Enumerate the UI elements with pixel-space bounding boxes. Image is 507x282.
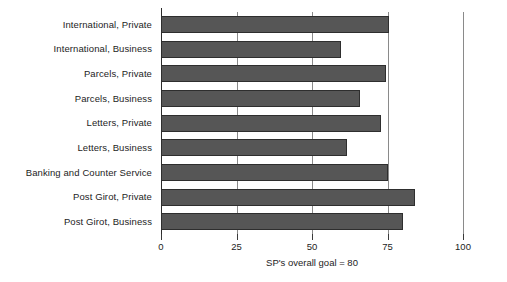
bar-row: [161, 86, 463, 111]
bar-row: [161, 12, 463, 37]
x-tick: [463, 234, 464, 240]
bar: [161, 115, 381, 132]
bar-row: [161, 111, 463, 136]
category-label: Post Girot, Private: [0, 185, 158, 210]
x-tick-label: 0: [158, 242, 163, 252]
axis-caption: SP's overall goal = 80: [161, 258, 463, 268]
category-label: Parcels, Private: [0, 61, 158, 86]
bar-chart: International, Private International, Bu…: [0, 0, 507, 282]
bar: [161, 16, 389, 33]
bar-series: [161, 12, 463, 234]
bar: [161, 213, 403, 230]
x-tick: [161, 234, 162, 240]
bar: [161, 41, 341, 58]
bar-row: [161, 37, 463, 62]
x-tick: [237, 234, 238, 240]
x-tick: [388, 234, 389, 240]
x-tick-label: 25: [231, 242, 242, 252]
category-axis-labels: International, Private International, Bu…: [0, 12, 158, 234]
bar-row: [161, 209, 463, 234]
bar-row: [161, 135, 463, 160]
bar-row: [161, 185, 463, 210]
category-label: Parcels, Business: [0, 86, 158, 111]
plot-area: [161, 12, 463, 234]
category-label: Letters, Private: [0, 111, 158, 136]
bar: [161, 90, 360, 107]
bar-row: [161, 61, 463, 86]
category-label: Banking and Counter Service: [0, 160, 158, 185]
gridline: [463, 12, 464, 234]
bar-row: [161, 160, 463, 185]
x-tick-label: 100: [455, 242, 471, 252]
category-label: Letters, Business: [0, 135, 158, 160]
bar: [161, 65, 386, 82]
bar: [161, 164, 388, 181]
bar: [161, 139, 347, 156]
category-label: International, Private: [0, 12, 158, 37]
x-tick-label: 75: [382, 242, 393, 252]
x-tick-label: 50: [307, 242, 318, 252]
bar: [161, 189, 415, 206]
x-tick: [312, 234, 313, 240]
category-label: Post Girot, Business: [0, 209, 158, 234]
category-label: International, Business: [0, 37, 158, 62]
